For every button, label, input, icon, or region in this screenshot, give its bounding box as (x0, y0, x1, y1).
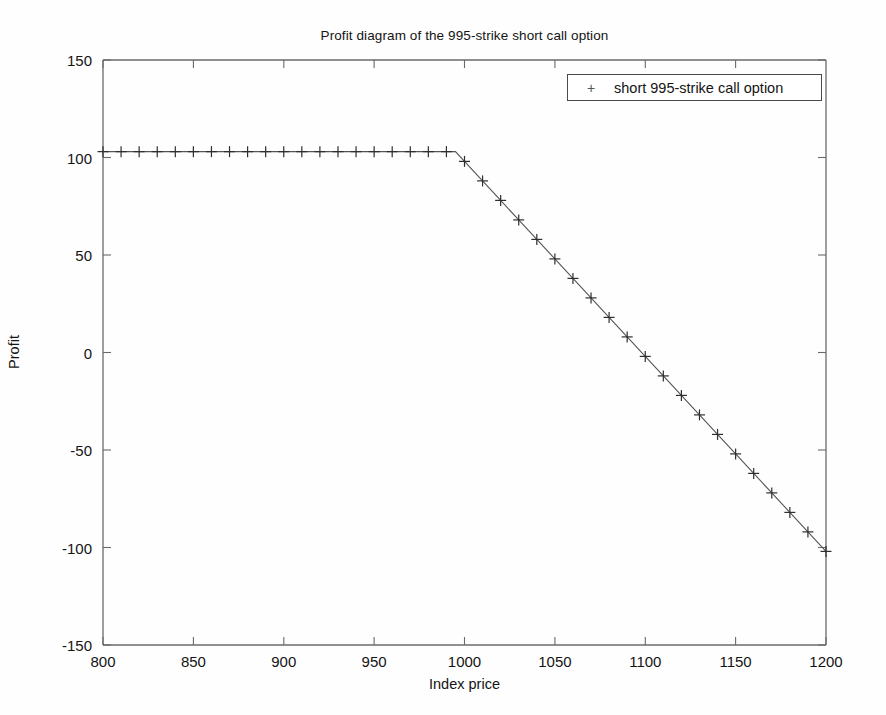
xtick-label-1000: 1000 (448, 653, 481, 670)
ytick-label-50: 50 (40, 247, 92, 264)
data-point-marker (152, 146, 163, 157)
xtick-label-900: 900 (271, 653, 296, 670)
data-point-marker (278, 146, 289, 157)
data-point-marker (206, 146, 217, 157)
xtick-label-950: 950 (362, 653, 387, 670)
data-point-marker (296, 146, 307, 157)
data-point-marker (405, 146, 416, 157)
ytick-label-0: 0 (40, 344, 92, 361)
xtick-label-850: 850 (181, 653, 206, 670)
xtick-label-1200: 1200 (809, 653, 842, 670)
legend-label: short 995-strike call option (614, 80, 783, 96)
x-axis-title: Index price (103, 676, 826, 692)
data-point-marker (441, 146, 452, 157)
xtick-label-800: 800 (90, 653, 115, 670)
data-point-marker (188, 146, 199, 157)
data-point-marker (170, 146, 181, 157)
legend-marker-plus-icon: + (568, 81, 614, 95)
legend[interactable]: + short 995-strike call option (567, 74, 822, 101)
xtick-label-1050: 1050 (538, 653, 571, 670)
ytick-label-neg150: -150 (40, 637, 92, 654)
data-point-marker (314, 146, 325, 157)
data-point-marker (332, 146, 343, 157)
figure-canvas: Profit diagram of the 995-strike short c… (0, 0, 886, 715)
data-point-marker (116, 146, 127, 157)
data-point-marker (423, 146, 434, 157)
data-point-marker (98, 146, 109, 157)
data-point-marker (224, 146, 235, 157)
plot-area (0, 0, 886, 715)
data-point-marker (242, 146, 253, 157)
y-axis-title: Profit (6, 335, 22, 369)
data-point-marker (260, 146, 271, 157)
data-point-marker (369, 146, 380, 157)
data-point-marker (134, 146, 145, 157)
xtick-label-1150: 1150 (719, 653, 751, 670)
ytick-label-neg100: -100 (40, 539, 92, 556)
data-series-short-call (98, 146, 832, 557)
xtick-label-1100: 1100 (629, 653, 661, 670)
data-point-marker (387, 146, 398, 157)
ytick-label-100: 100 (40, 149, 92, 166)
data-point-marker (351, 146, 362, 157)
ytick-label-neg50: -50 (40, 442, 92, 459)
ytick-label-150: 150 (40, 52, 92, 69)
